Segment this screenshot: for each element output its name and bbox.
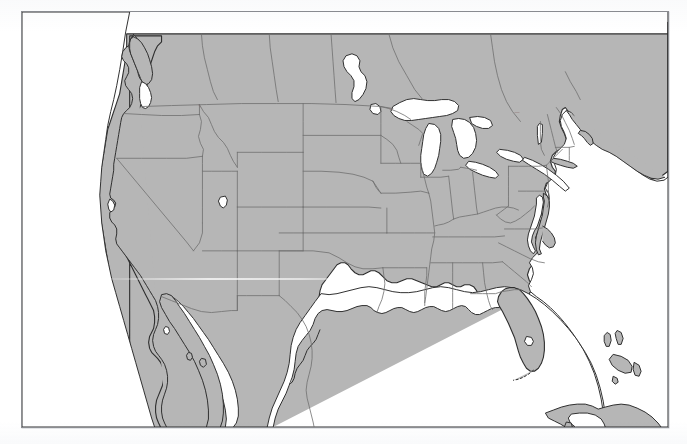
isla-angel-de-la-guarda — [186, 352, 192, 360]
map-page: .land{fill:#b6b6b6;stroke:#2f2f2f;stroke… — [0, 0, 687, 444]
baja-island-cedros — [164, 326, 170, 334]
lake-champlain — [537, 123, 542, 144]
us-outline-map[interactable]: .land{fill:#b6b6b6;stroke:#2f2f2f;stroke… — [22, 12, 668, 427]
map-border: .land{fill:#b6b6b6;stroke:#2f2f2f;stroke… — [21, 11, 669, 428]
isla-de-la-juventud — [564, 422, 572, 427]
